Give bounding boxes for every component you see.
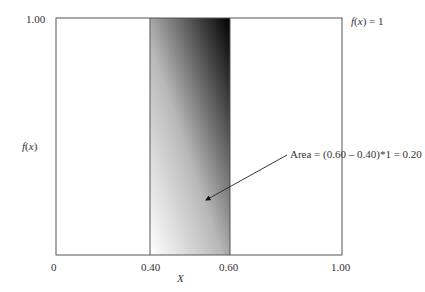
uniform-distribution-chart: 1.00 f(x) = 1 f(x) Area = (0.60 – 0.40)*…	[0, 0, 425, 292]
function-label: f(x) = 1	[351, 15, 384, 28]
x-axis-label: X	[176, 272, 185, 284]
shaded-area	[150, 18, 230, 255]
x-tick-0: 0	[51, 261, 57, 273]
y-tick-top: 1.00	[26, 13, 46, 25]
annotation-text: Area = (0.60 – 0.40)*1 = 0.20	[290, 148, 422, 161]
x-tick-100: 1.00	[331, 261, 351, 273]
x-tick-040: 0.40	[141, 261, 161, 273]
x-tick-060: 0.60	[219, 261, 239, 273]
y-axis-label: f(x)	[22, 140, 38, 153]
